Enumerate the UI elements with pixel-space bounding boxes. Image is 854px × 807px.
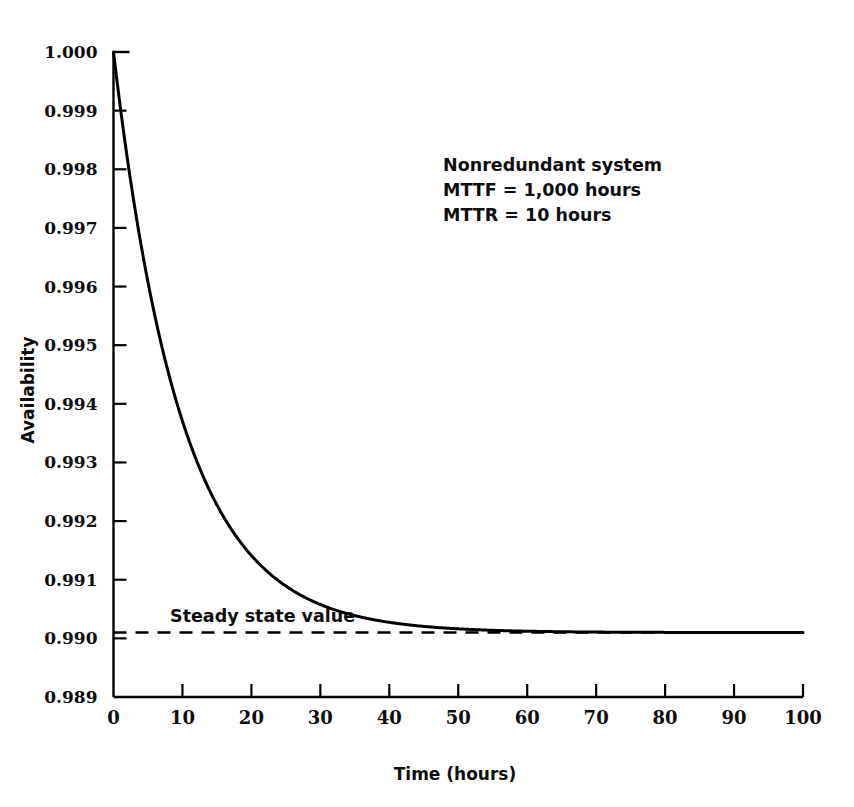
y-tick-label: 0.998 [44, 159, 97, 179]
y-tick-label: 0.999 [44, 101, 97, 121]
x-tick-label: 50 [446, 707, 471, 728]
y-tick-label: 0.992 [44, 511, 97, 531]
y-tick-label: 0.997 [44, 218, 97, 238]
y-tick-label: 0.993 [44, 452, 97, 472]
y-tick-label: 0.996 [44, 277, 97, 297]
x-tick-label: 80 [653, 707, 678, 728]
x-axis-tick-marks [182, 684, 803, 697]
y-axis-tick-marks [114, 52, 130, 638]
y-tick-label: 0.994 [44, 394, 97, 414]
y-axis-title: Availability [18, 336, 38, 443]
annotation-nonredundant-system: Nonredundant system [443, 155, 662, 175]
x-axis-tick-labels: 0102030405060708090100 [107, 707, 822, 728]
y-tick-label: 0.989 [44, 687, 97, 707]
x-axis-title: Time (hours) [394, 764, 517, 784]
annotation-mttr: MTTR = 10 hours [443, 205, 611, 225]
x-tick-label: 90 [722, 707, 747, 728]
x-tick-label: 40 [377, 707, 402, 728]
annotation-mttf: MTTF = 1,000 hours [443, 180, 641, 200]
x-tick-label: 10 [170, 707, 195, 728]
y-tick-label: 0.991 [44, 570, 97, 590]
y-tick-label: 0.990 [44, 628, 97, 648]
x-tick-label: 20 [239, 707, 264, 728]
y-tick-label: 0.995 [44, 335, 97, 355]
steady-state-label: Steady state value [170, 606, 355, 626]
x-tick-label: 30 [308, 707, 333, 728]
x-tick-label: 70 [584, 707, 609, 728]
x-tick-label: 0 [107, 707, 120, 728]
availability-curve [114, 52, 804, 633]
y-tick-label: 1.000 [44, 42, 97, 62]
x-tick-label: 100 [784, 707, 822, 728]
chart-canvas: 1.0000.9990.9980.9970.9960.9950.9940.993… [0, 0, 854, 807]
y-axis-tick-labels: 1.0000.9990.9980.9970.9960.9950.9940.993… [44, 42, 97, 707]
x-tick-label: 60 [515, 707, 540, 728]
availability-chart-figure: 1.0000.9990.9980.9970.9960.9950.9940.993… [0, 0, 854, 807]
